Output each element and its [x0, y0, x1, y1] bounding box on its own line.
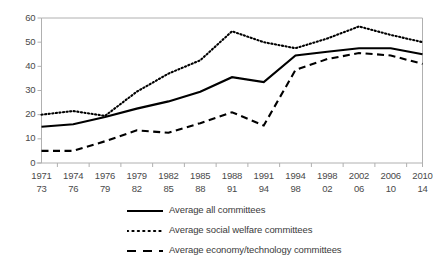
x-axis-tick-label-top: 1976	[88, 170, 122, 183]
x-axis-tick-label-top: 2010	[406, 170, 440, 183]
x-axis-tick-label-top: 1988	[215, 170, 249, 183]
x-axis-tick-label: 198588	[183, 170, 217, 195]
x-axis-tick-label: 197679	[88, 170, 122, 195]
y-axis-tick-label: 50	[14, 37, 36, 47]
x-axis-tick-label: 197476	[56, 170, 90, 195]
x-axis-tick-label-top: 1971	[25, 170, 59, 183]
x-axis-tick-label-bottom: 82	[120, 183, 154, 196]
series-line-2	[42, 26, 423, 115]
line-chart: 6050403020100 19717319747619767919798219…	[0, 0, 440, 261]
x-axis-tick-label-top: 1998	[310, 170, 344, 183]
y-axis-tick-label: 10	[14, 133, 36, 143]
x-axis-tick-label: 197173	[25, 170, 59, 195]
x-axis-tick-label: 198891	[215, 170, 249, 195]
x-axis-tick-label: 200206	[342, 170, 376, 195]
legend-item: Average social welfare committees	[0, 219, 440, 239]
x-axis-tick-label-top: 1974	[56, 170, 90, 183]
y-axis-tick-label: 40	[14, 61, 36, 71]
x-axis-tick-label-bottom: 02	[310, 183, 344, 196]
x-axis-tick-label-bottom: 91	[215, 183, 249, 196]
x-axis-tick-label-top: 1991	[247, 170, 281, 183]
y-axis-tick-label: 20	[14, 109, 36, 119]
series-line-3	[42, 53, 423, 151]
x-axis-tick-label: 199802	[310, 170, 344, 195]
x-axis-tick-label-bottom: 98	[279, 183, 313, 196]
legend-item: Average economy/technology committees	[0, 239, 440, 259]
x-axis-tick-label: 200610	[374, 170, 408, 195]
x-axis-tick-label-top: 1994	[279, 170, 313, 183]
y-axis-tick-label: 30	[14, 85, 36, 95]
x-axis-tick-label-bottom: 10	[374, 183, 408, 196]
x-axis-tick-label: 198285	[152, 170, 186, 195]
x-axis-tick-label-bottom: 88	[183, 183, 217, 196]
x-axis-tick-label-bottom: 85	[152, 183, 186, 196]
x-axis-tick-label: 199498	[279, 170, 313, 195]
legend-label: Average economy/technology committees	[169, 244, 342, 255]
x-axis-tick-label: 197982	[120, 170, 154, 195]
x-axis-tick-label-bottom: 94	[247, 183, 281, 196]
x-axis-tick-label-bottom: 14	[406, 183, 440, 196]
legend-swatch-dotted	[127, 223, 163, 235]
y-axis-tick-label: 0	[14, 158, 36, 168]
x-axis-tick-label-top: 1985	[183, 170, 217, 183]
x-axis-tick-label-top: 1979	[120, 170, 154, 183]
x-axis-tick-label-top: 2006	[374, 170, 408, 183]
x-axis-tick-label-top: 2002	[342, 170, 376, 183]
legend-label: Average all committees	[169, 204, 265, 215]
x-axis-tick-label-bottom: 06	[342, 183, 376, 196]
x-axis-tick-label-bottom: 76	[56, 183, 90, 196]
x-axis-tick-label: 199194	[247, 170, 281, 195]
legend-item: Average all committees	[0, 199, 440, 219]
legend-swatch-solid	[127, 203, 163, 215]
x-axis-tick-label-bottom: 73	[25, 183, 59, 196]
x-axis-tick-label: 201014	[406, 170, 440, 195]
legend-swatch-dashed	[127, 243, 163, 255]
x-axis-tick-label-bottom: 79	[88, 183, 122, 196]
x-axis-tick-label-top: 1982	[152, 170, 186, 183]
chart-legend: Average all committeesAverage social wel…	[0, 199, 440, 259]
y-axis-tick-label: 60	[14, 13, 36, 23]
legend-label: Average social welfare committees	[169, 224, 312, 235]
